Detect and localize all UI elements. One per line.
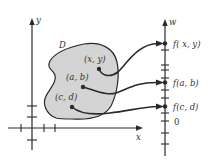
y-axis-label: y — [35, 15, 41, 25]
value-label-fxy: f( x, y) — [172, 39, 200, 49]
point-label-ab: (a, b) — [66, 72, 89, 82]
point-cd-dot — [70, 105, 74, 109]
point-ab-dot — [81, 85, 85, 89]
w-origin-label: 0 — [174, 117, 179, 127]
w-axis-group — [161, 19, 169, 156]
value-fxy-dot — [163, 41, 167, 45]
point-xy-dot — [97, 67, 101, 71]
value-fab-dot — [163, 80, 167, 84]
w-axis-arrowhead-icon — [162, 19, 167, 26]
value-label-fcd: f(c, d) — [172, 102, 198, 112]
x-axis-label: x — [136, 132, 141, 142]
value-label-fab: f(a, b) — [172, 78, 199, 88]
x-axis-arrowhead-icon — [136, 125, 143, 130]
w-axis-label: w — [169, 17, 177, 27]
point-label-cd: (c, d) — [55, 92, 77, 102]
region-label-d: D — [58, 40, 66, 50]
function-mapping-diagram: x y D (x, y) (a, b) (c, d) w f( x, y) f(… — [0, 0, 221, 161]
y-axis-arrowhead-icon — [29, 18, 34, 25]
point-label-xy: (x, y) — [84, 54, 106, 64]
value-fcd-dot — [163, 104, 167, 108]
